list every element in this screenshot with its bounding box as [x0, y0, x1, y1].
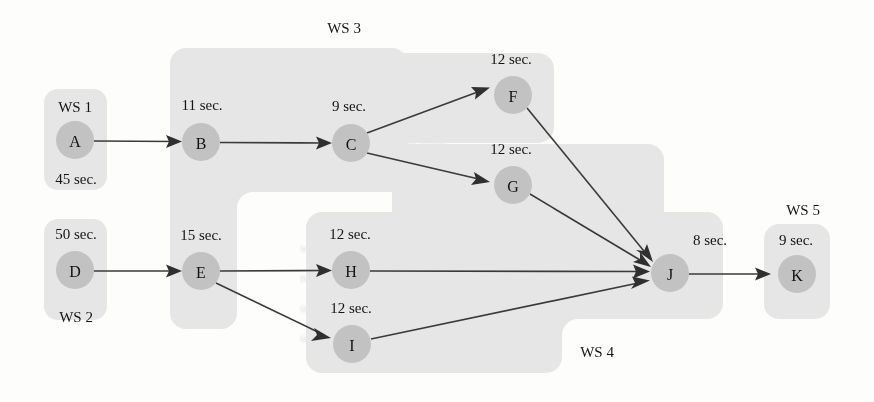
edge-d-e	[94, 265, 182, 278]
ws-label-ws4: WS 4	[580, 344, 614, 360]
time-label-a: 45 sec.	[55, 171, 97, 187]
time-label-f: 12 sec.	[490, 51, 532, 67]
node-h-label: H	[345, 263, 357, 280]
node-j-label: J	[667, 266, 673, 283]
node-c-label: C	[346, 136, 357, 153]
node-a[interactable]: A	[56, 121, 94, 159]
node-e-label: E	[196, 264, 206, 281]
diagram-svg: uooo nnunoiun ouuuoun oonuu un uouucu yo…	[0, 0, 874, 402]
node-b-label: B	[196, 135, 207, 152]
time-label-k: 9 sec.	[779, 232, 813, 248]
ws-label-ws1: WS 1	[58, 99, 92, 115]
node-d[interactable]: D	[56, 251, 94, 289]
precedence-diagram-canvas: uooo nnunoiun ouuuoun oonuu un uouucu yo…	[0, 0, 874, 402]
node-f-label: F	[509, 88, 518, 105]
ws-label-ws3: WS 3	[327, 20, 361, 36]
edge-a-b	[94, 135, 182, 148]
time-label-i: 12 sec.	[330, 300, 372, 316]
node-k-label: K	[791, 267, 803, 284]
time-label-c: 9 sec.	[332, 98, 366, 114]
node-g[interactable]: G	[494, 166, 532, 204]
ws-label-ws5: WS 5	[786, 202, 820, 218]
ws-label-ws2: WS 2	[59, 309, 93, 325]
node-c[interactable]: C	[332, 124, 370, 162]
node-e[interactable]: E	[182, 252, 220, 290]
time-label-j: 8 sec.	[693, 232, 727, 248]
node-i-label: I	[349, 337, 354, 354]
node-k[interactable]: K	[778, 255, 816, 293]
time-label-d: 50 sec.	[55, 226, 97, 242]
time-label-e: 15 sec.	[180, 227, 222, 243]
node-i[interactable]: I	[333, 325, 371, 363]
node-d-label: D	[69, 263, 81, 280]
node-f[interactable]: F	[494, 76, 532, 114]
time-label-g: 12 sec.	[490, 141, 532, 157]
node-b[interactable]: B	[182, 123, 220, 161]
node-a-label: A	[69, 133, 81, 150]
time-label-h: 12 sec.	[329, 226, 371, 242]
node-g-label: G	[507, 178, 519, 195]
node-h[interactable]: H	[332, 251, 370, 289]
node-j[interactable]: J	[651, 254, 689, 292]
time-label-b: 11 sec.	[181, 97, 222, 113]
